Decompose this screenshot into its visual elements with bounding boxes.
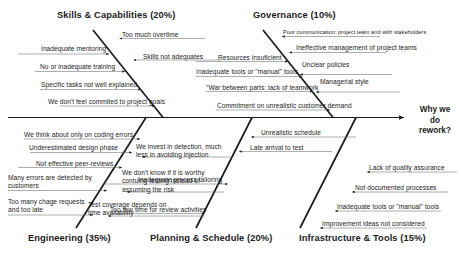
cause-engineering-not-effective-peer-reviews[interactable]: Not effective peer-reviews [36,160,113,167]
category-title-infrastructure[interactable]: Infrastructure & Tools (15%) [299,233,426,243]
cause-engineering-errors-detected-by-customers[interactable]: Many errors are detected by customers [8,174,112,191]
cause-engineering-too-many-change-requests[interactable]: Too many chage requests and too late [8,198,85,215]
category-title-governance[interactable]: Governance (10%) [253,10,336,20]
cause-governance-inadequate-tools[interactable]: Inadequate tools or "manual" tools [196,68,298,75]
category-title-skills[interactable]: Skills & Capabilities (20%) [57,10,175,20]
cause-planning-inadequate-process-tailoring[interactable]: Inadequate process tailoring [138,176,222,183]
cause-governance-ineffective-management[interactable]: Ineffective management of project teams [296,44,417,51]
category-title-planning[interactable]: Planning & Schedule (20%) [150,233,272,243]
cause-governance-unclear-policies[interactable]: Unclear policies [302,61,349,68]
category-title-engineering[interactable]: Engineering (35%) [28,233,111,243]
cause-planning-unrealistic-schedule[interactable]: Unrealistic schedule [261,129,321,136]
cause-infrastructure-inadequate-tools[interactable]: Inadequate tools or "manual" tools [337,203,439,210]
cause-planning-too-few-time-for-review[interactable]: Too few time for review activities [110,206,206,213]
cause-skills-skills-not-adequates[interactable]: Skills not adequates [143,53,203,60]
cause-infrastructure-improvement-ideas-not-considered[interactable]: Improvement ideas not considered [322,220,425,227]
effect-line-2: do [410,116,460,127]
effect-line-3: rework? [410,126,460,137]
cause-governance-commitment-unrealistic-demand[interactable]: Commitment on unrealistic customer deman… [217,102,352,109]
fishbone-diagram-canvas: Skills & Capabilities (20%) Governance (… [0,0,461,260]
cause-governance-poor-communication[interactable]: Poor communication: project team and wit… [283,29,426,35]
cause-governance-managerial-style[interactable]: Managerial style [320,78,369,85]
cause-engineering-underestimated-design-phase[interactable]: Underestimated design phase [29,144,118,151]
cause-engineering-only-coding-errors[interactable]: We think about only on coding errors [24,131,133,138]
cause-infrastructure-lack-of-quality-assurance[interactable]: Lack of quality assurance [369,164,445,171]
cause-skills-specific-tasks-not-well-explained[interactable]: Specific tasks not well explained [41,81,137,88]
cause-planning-late-arrival-to-test[interactable]: Late arrival to test [250,144,303,151]
cause-skills-inadequate-mentoring[interactable]: Inadequate mentoring [41,45,106,52]
effect-label: Why we do rework? [410,105,460,137]
cause-governance-resources-insuficient[interactable]: Resources insuficient [218,54,282,61]
cause-infrastructure-not-documented-processes[interactable]: Not documented processes [355,184,436,191]
cause-governance-war-between-parts[interactable]: "War between parts: lack of teamwork [206,84,318,91]
cause-skills-not-commited-to-project-goals[interactable]: We don't feel commited to project goals [48,98,165,105]
cause-engineering-invest-in-detection[interactable]: We invest in detection, much less in avo… [136,143,234,160]
effect-line-1: Why we [410,105,460,116]
cause-skills-no-or-inadequate-training[interactable]: No or inadequate training [40,63,115,70]
cause-skills-too-much-overtime[interactable]: Too much overtime [122,31,179,38]
